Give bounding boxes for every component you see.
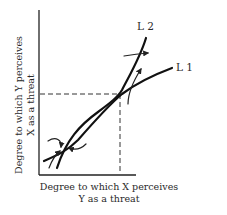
y-axis-label-line1: Degree to which Y perceives <box>13 36 24 174</box>
y-axis-label-line2: X as a threat <box>25 74 36 136</box>
threat-perception-diagram: L 2 L 1 Degree to which Y perceives X as… <box>0 0 227 215</box>
arrow-lower-top <box>48 139 61 147</box>
arrow-upper-left <box>124 53 148 56</box>
label-l2: L 2 <box>137 20 154 32</box>
x-axis-label-line1: Degree to which X perceives <box>40 181 178 192</box>
x-axis-label-line2: Y as a threat <box>77 193 139 204</box>
curve-l1 <box>44 68 172 161</box>
label-l1: L 1 <box>176 61 193 73</box>
